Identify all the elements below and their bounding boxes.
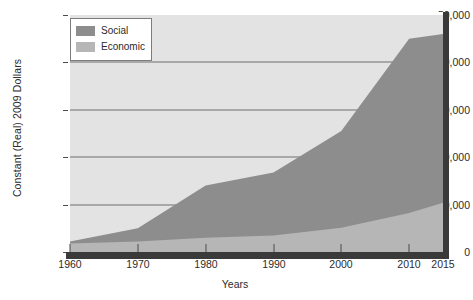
plot-top-gap bbox=[70, 12, 443, 15]
x-tick-label-2000: 2000 bbox=[311, 258, 371, 270]
x-tick-label-1990: 1990 bbox=[244, 258, 304, 270]
legend-item-social[interactable]: Social bbox=[76, 23, 146, 39]
legend-swatch-social bbox=[76, 26, 95, 36]
chart-legend: Social Economic bbox=[70, 18, 152, 61]
x-axis-title: Years bbox=[0, 278, 470, 290]
legend-item-economic[interactable]: Economic bbox=[76, 39, 146, 55]
right-axis-spine bbox=[443, 12, 449, 259]
x-tick-label-2015: 2015 bbox=[413, 258, 473, 270]
legend-label-economic: Economic bbox=[101, 42, 145, 52]
legend-label-social: Social bbox=[101, 26, 128, 36]
x-tick-label-1970: 1970 bbox=[108, 258, 168, 270]
x-tick-label-1980: 1980 bbox=[176, 258, 236, 270]
x-tick-label-1960: 1960 bbox=[40, 258, 100, 270]
legend-swatch-economic bbox=[76, 42, 95, 52]
